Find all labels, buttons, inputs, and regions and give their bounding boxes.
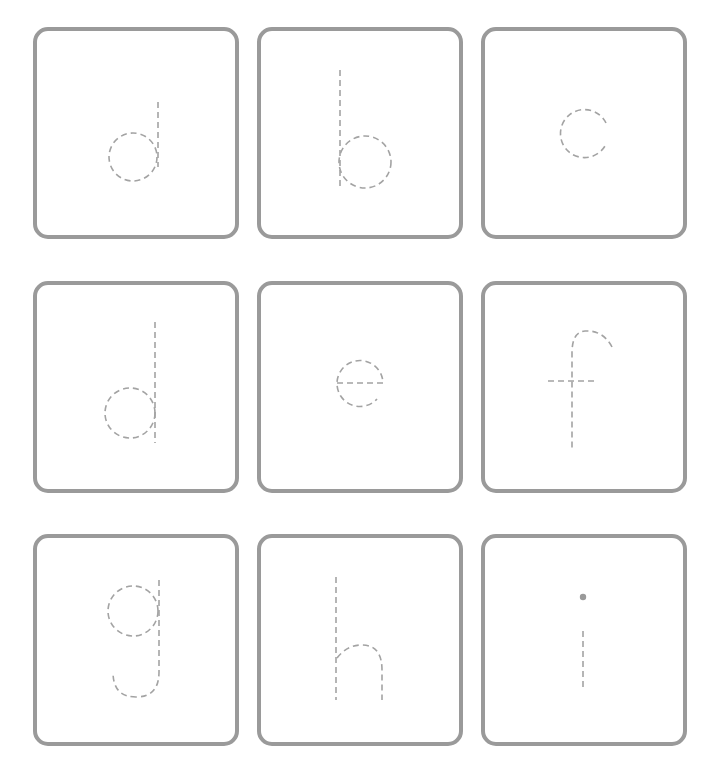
tracing-card-f: f	[481, 281, 687, 493]
dashed-letter-e-icon	[257, 281, 463, 493]
dashed-letter-h-icon	[257, 534, 463, 746]
dashed-letter-d-icon	[33, 281, 239, 493]
tracing-card-g: g	[33, 534, 239, 746]
tracing-card-h: h	[257, 534, 463, 746]
tracing-card-i: i	[481, 534, 687, 746]
tracing-card-a: a	[33, 27, 239, 239]
dashed-letter-g-icon	[33, 534, 239, 746]
dashed-letter-i-icon	[481, 534, 687, 746]
tracing-card-c: c	[481, 27, 687, 239]
dashed-letter-b-icon	[257, 27, 463, 239]
dashed-letter-f-icon	[481, 281, 687, 493]
i-dot-icon	[580, 594, 586, 600]
tracing-card-d: d	[33, 281, 239, 493]
tracing-card-b: b	[257, 27, 463, 239]
dashed-letter-c-icon	[481, 27, 687, 239]
dashed-letter-a-icon	[33, 27, 239, 239]
tracing-card-e: e	[257, 281, 463, 493]
